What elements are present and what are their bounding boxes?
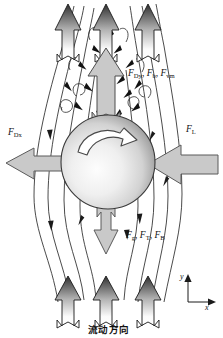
upper-term-0-sub: Dy xyxy=(134,72,142,79)
flow-arrow-bottom-1 xyxy=(55,276,81,328)
label-lift-sub: L xyxy=(192,128,196,135)
flow-arrows-bottom xyxy=(55,276,161,328)
label-drag-x: FDx xyxy=(8,128,22,138)
flow-arrow-bottom-2 xyxy=(93,276,119,328)
flow-arrow-top-1 xyxy=(55,4,81,62)
flow-arrow-top-3 xyxy=(135,4,161,62)
upper-term-1-sub: b xyxy=(152,72,155,79)
label-upper-force-group: FDy, Fb, Fvm xyxy=(128,69,175,79)
upper-term-2-sub: vm xyxy=(166,72,174,79)
lower-term-2-sub: B xyxy=(160,234,164,241)
flow-direction-label: 流动方向 xyxy=(88,322,129,336)
flow-arrow-bottom-3 xyxy=(135,276,161,328)
sphere xyxy=(61,115,155,209)
lower-term-1-symbol: F xyxy=(140,230,146,240)
label-drag-x-sub: Dx xyxy=(14,131,22,138)
lower-term-1-sub: T xyxy=(146,234,150,241)
diagram-canvas xyxy=(0,0,223,338)
upper-term-0-symbol: F xyxy=(128,68,134,78)
axis-arrowheads xyxy=(184,274,216,306)
label-lower-force-group: Fg, FT, FB xyxy=(126,231,165,241)
lower-term-0-sub: g xyxy=(132,234,135,241)
axis-indicator xyxy=(188,278,212,302)
lower-term-0-symbol: F xyxy=(126,230,132,240)
label-lift-text: F xyxy=(186,124,192,134)
force-arrow-right xyxy=(148,145,218,184)
label-drag-x-text: F xyxy=(8,127,14,137)
flow-force-diagram: FDx FL FDy, Fb, Fvm Fg, FT, FB 流动方向 y x xyxy=(0,0,223,338)
axis-label-y: y xyxy=(180,272,184,281)
label-lift: FL xyxy=(186,125,196,135)
axis-label-x: x xyxy=(205,303,209,312)
force-arrow-down xyxy=(94,203,118,254)
